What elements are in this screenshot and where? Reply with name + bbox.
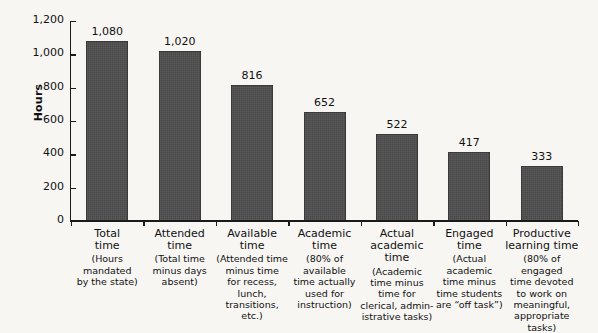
category-caption-line: (80% of engaged xyxy=(504,253,580,276)
x-axis-category-label: Totaltime(Hoursmandatedby the state) xyxy=(69,228,145,288)
bar-group[interactable]: 1,020 xyxy=(148,21,212,221)
bar[interactable] xyxy=(231,85,273,221)
x-axis-labels: Totaltime(Hoursmandatedby the state)Atte… xyxy=(71,228,578,316)
bar-value-label: 333 xyxy=(510,150,574,163)
category-title-line: time xyxy=(142,240,218,252)
category-title-line: learning time xyxy=(504,240,580,252)
category-caption-line: by the state) xyxy=(69,276,145,287)
category-caption-line: academic xyxy=(431,265,507,276)
x-axis-tick-mark xyxy=(506,221,507,226)
bar-group[interactable]: 417 xyxy=(437,21,501,221)
category-title: Productivelearning time xyxy=(504,228,580,252)
y-axis-tick-label: 800 xyxy=(0,80,64,93)
category-caption-line: time for xyxy=(359,288,435,299)
category-caption: (80% of engagedtime devotedto work onmea… xyxy=(504,253,580,333)
category-caption-line: time devoted xyxy=(504,276,580,287)
category-caption-line: (Attended time xyxy=(214,253,290,264)
category-caption-line: minus days xyxy=(142,265,218,276)
plot-area: 1,0801,020816652522417333 xyxy=(71,21,578,221)
category-caption-line: time minus xyxy=(359,277,435,288)
bar-group[interactable]: 1,080 xyxy=(75,21,139,221)
bar-value-label: 417 xyxy=(437,136,501,149)
y-axis-tick-label: 0 xyxy=(0,213,64,226)
category-title: Totaltime xyxy=(69,228,145,252)
category-caption-line: mandated xyxy=(69,265,145,276)
category-title: Actualacademic time xyxy=(359,228,435,265)
x-axis-tick-mark xyxy=(433,221,434,226)
bar[interactable] xyxy=(86,41,128,221)
x-axis-category-label: Academictime(80% ofavailabletime actuall… xyxy=(287,228,363,310)
bar-group[interactable]: 522 xyxy=(365,21,429,221)
bar-value-label: 1,080 xyxy=(75,25,139,38)
category-caption-line: time minus xyxy=(431,276,507,287)
category-caption: (80% ofavailabletime actuallyused forins… xyxy=(287,253,363,310)
category-title: Engagedtime xyxy=(431,228,507,252)
category-title: Academictime xyxy=(287,228,363,252)
x-axis-category-label: Actualacademic time(Academictime minusti… xyxy=(359,228,435,323)
category-caption-line: absent) xyxy=(142,276,218,287)
x-axis-tick-mark xyxy=(143,221,144,226)
category-caption-line: clerical, admin- xyxy=(359,300,435,311)
category-title: Attendedtime xyxy=(142,228,218,252)
category-caption-line: (Actual xyxy=(431,253,507,264)
bar-value-label: 652 xyxy=(293,96,357,109)
category-caption-line: available xyxy=(287,265,363,276)
y-axis-tick-label: 400 xyxy=(0,146,64,159)
category-caption-line: (Academic xyxy=(359,266,435,277)
category-title-line: time xyxy=(69,240,145,252)
y-axis-tick-label: 1,000 xyxy=(0,46,64,59)
category-caption: (Academictime minustime forclerical, adm… xyxy=(359,266,435,323)
category-caption-line: istrative tasks) xyxy=(359,311,435,322)
y-axis-tick-label: 600 xyxy=(0,113,64,126)
category-caption-line: are “off task”) xyxy=(431,299,507,310)
category-caption-line: (Total time xyxy=(142,253,218,264)
x-axis-tick-mark xyxy=(71,221,72,226)
category-caption-line: for recess, lunch, xyxy=(214,276,290,299)
x-axis-tick-mark xyxy=(578,221,579,226)
bar-value-label: 816 xyxy=(220,69,284,82)
x-axis-tick-mark xyxy=(361,221,362,226)
category-caption: (Attended timeminus timefor recess, lunc… xyxy=(214,253,290,321)
category-caption-line: used for xyxy=(287,288,363,299)
category-caption-line: (80% of xyxy=(287,253,363,264)
x-axis-tick-mark xyxy=(288,221,289,226)
category-title-line: time xyxy=(214,240,290,252)
x-axis-category-label: Attendedtime(Total timeminus daysabsent) xyxy=(142,228,218,288)
bar[interactable] xyxy=(448,152,490,222)
y-axis-tick-label: 1,200 xyxy=(0,13,64,26)
category-caption: (Total timeminus daysabsent) xyxy=(142,253,218,287)
category-caption: (Actualacademictime minustime studentsar… xyxy=(431,253,507,310)
category-caption-line: (Hours xyxy=(69,253,145,264)
category-caption: (Hoursmandatedby the state) xyxy=(69,253,145,287)
x-axis-tick-mark xyxy=(216,221,217,226)
bar[interactable] xyxy=(159,51,201,221)
category-title-line: academic time xyxy=(359,240,435,264)
category-caption-line: transitions, etc.) xyxy=(214,299,290,322)
category-caption-line: time students xyxy=(431,288,507,299)
bar[interactable] xyxy=(376,134,418,221)
category-caption-line: minus time xyxy=(214,265,290,276)
y-axis-tick-label: 200 xyxy=(0,180,64,193)
category-title: Availabletime xyxy=(214,228,290,252)
category-caption-line: meaningful, xyxy=(504,299,580,310)
x-axis-category-label: Availabletime(Attended timeminus timefor… xyxy=(214,228,290,322)
bar[interactable] xyxy=(304,112,346,221)
bar-group[interactable]: 816 xyxy=(220,21,284,221)
x-axis-category-label: Engagedtime(Actualacademictime minustime… xyxy=(431,228,507,310)
category-title-line: time xyxy=(287,240,363,252)
category-caption-line: appropriate tasks) xyxy=(504,310,580,333)
bar[interactable] xyxy=(521,166,563,222)
category-caption-line: time actually xyxy=(287,276,363,287)
bar-value-label: 522 xyxy=(365,118,429,131)
category-caption-line: instruction) xyxy=(287,299,363,310)
bar-group[interactable]: 333 xyxy=(510,21,574,221)
category-caption-line: to work on xyxy=(504,288,580,299)
category-title-line: time xyxy=(431,240,507,252)
bar-value-label: 1,020 xyxy=(148,35,212,48)
bar-group[interactable]: 652 xyxy=(293,21,357,221)
x-axis-line xyxy=(70,220,578,222)
x-axis-category-label: Productivelearning time(80% of engagedti… xyxy=(504,228,580,333)
